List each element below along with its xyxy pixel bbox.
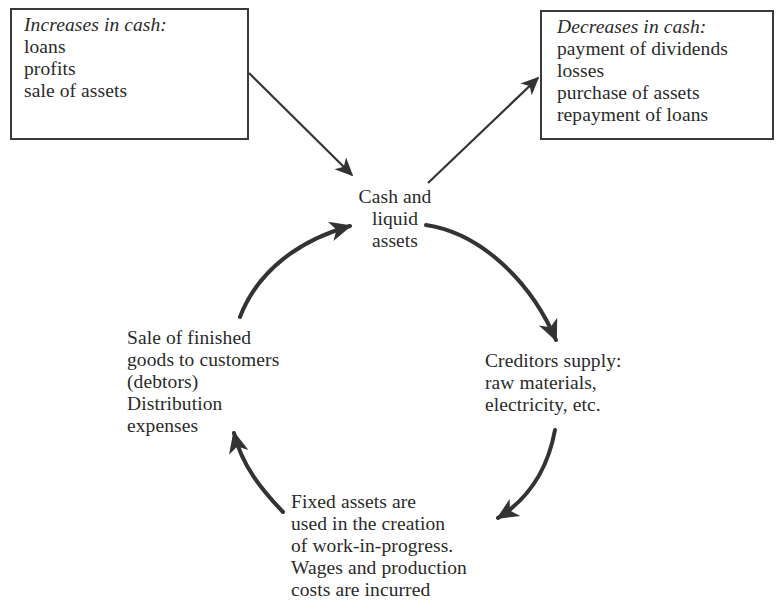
cash-node-line-2: liquid xyxy=(340,208,450,230)
increase-item-sale-of-assets: sale of assets xyxy=(24,80,247,102)
decreases-heading: Decreases in cash: xyxy=(557,16,772,38)
sales-node-line-2: goods to customers xyxy=(127,349,279,371)
increase-item-profits: profits xyxy=(24,58,247,80)
creditors-node-line-1: Creditors supply: xyxy=(485,350,622,372)
decrease-item-losses: losses xyxy=(557,60,772,82)
production-node-line-5: costs are incurred xyxy=(291,579,467,601)
creditors-supply-node: Creditors supply: raw materials, electri… xyxy=(485,350,622,416)
decreases-in-cash-box: Decreases in cash: payment of dividends … xyxy=(540,10,774,140)
cash-node-line-1: Cash and xyxy=(340,186,450,208)
sales-node-line-3: (debtors) xyxy=(127,371,279,393)
increases-in-cash-box: Increases in cash: loans profits sale of… xyxy=(10,8,249,140)
creditors-node-line-3: electricity, etc. xyxy=(485,394,622,416)
creditors-node-line-2: raw materials, xyxy=(485,372,622,394)
sales-node-line-1: Sale of finished xyxy=(127,327,279,349)
sales-node-line-5: expenses xyxy=(127,415,279,437)
production-node-line-2: used in the creation xyxy=(291,513,467,535)
increases-heading: Increases in cash: xyxy=(24,14,247,36)
arrow-creditors-to-production xyxy=(498,430,555,518)
arrow-production-to-sales xyxy=(234,433,283,512)
production-node-line-3: of work-in-progress. xyxy=(291,535,467,557)
production-node-line-4: Wages and production xyxy=(291,557,467,579)
arrow-cash-to-decreases xyxy=(428,78,538,183)
arrow-sales-to-cash xyxy=(240,226,350,317)
sales-node: Sale of finished goods to customers (deb… xyxy=(127,327,279,437)
arrow-increases-to-cash xyxy=(249,73,352,175)
production-node-line-1: Fixed assets are xyxy=(291,491,467,513)
cash-node-line-3: assets xyxy=(340,230,450,252)
decrease-item-purchase-of-assets: purchase of assets xyxy=(557,82,772,104)
cash-and-liquid-assets-node: Cash and liquid assets xyxy=(340,186,450,252)
increase-item-loans: loans xyxy=(24,36,247,58)
decrease-item-dividends: payment of dividends xyxy=(557,38,772,60)
sales-node-line-4: Distribution xyxy=(127,393,279,415)
production-node: Fixed assets are used in the creation of… xyxy=(291,491,467,601)
decrease-item-repayment-of-loans: repayment of loans xyxy=(557,104,772,126)
